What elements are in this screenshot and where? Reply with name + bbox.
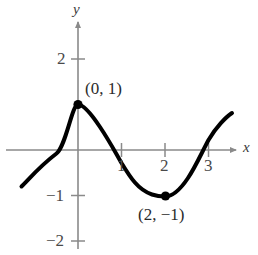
maximum-point-label: (0, 1) bbox=[85, 80, 122, 97]
y-tick-label-neg1: −1 bbox=[46, 187, 64, 204]
y-axis-label: y bbox=[73, 2, 80, 17]
x-tick-label-1: 1 bbox=[117, 157, 126, 174]
x-tick-label-2: 2 bbox=[160, 157, 169, 174]
minimum-point-marker bbox=[161, 191, 170, 200]
maximum-point-marker bbox=[73, 100, 82, 109]
graph-figure: y x 2 −1 −2 1 2 3 (0, 1) (2, −1) bbox=[0, 0, 258, 255]
x-axis-label: x bbox=[243, 140, 250, 155]
y-tick-label-neg2: −2 bbox=[46, 232, 64, 249]
x-tick-label-3: 3 bbox=[204, 157, 213, 174]
plot-canvas bbox=[0, 0, 258, 255]
y-tick-label-2: 2 bbox=[57, 50, 66, 67]
minimum-point-label: (2, −1) bbox=[138, 206, 184, 223]
